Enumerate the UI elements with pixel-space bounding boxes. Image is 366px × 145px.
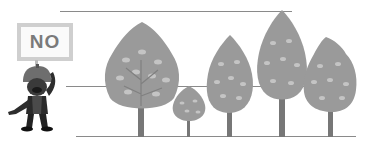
tree-5 xyxy=(302,36,358,137)
no-sign: NO xyxy=(17,23,73,61)
tree-3 xyxy=(205,34,255,137)
character-figure xyxy=(6,60,68,132)
tree-4 xyxy=(255,9,309,137)
sign-label: NO xyxy=(30,31,61,53)
tree-1 xyxy=(102,20,182,137)
tree-2 xyxy=(171,85,207,137)
